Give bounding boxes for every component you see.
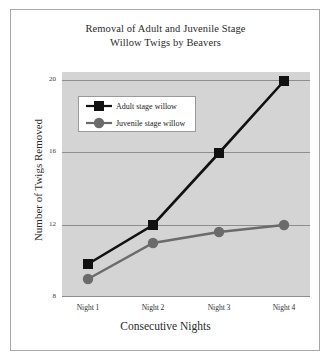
chart-figure: Removal of Adult and Juvenile Stage Will… xyxy=(0,0,331,362)
data-point-adult-night-2 xyxy=(148,220,158,230)
chart-title-line-2: Willow Twigs by Beavers xyxy=(20,36,311,50)
x-tick-label-night-3: Night 3 xyxy=(189,303,249,312)
data-point-adult-night-1 xyxy=(83,259,93,269)
chart-title-line-1: Removal of Adult and Juvenile Stage xyxy=(20,22,311,36)
y-tick-label-8: 8 xyxy=(30,292,56,300)
legend-label-juvenile: Juvenile stage willow xyxy=(116,119,185,128)
data-point-juvenile-night-1 xyxy=(83,274,93,284)
y-tick-label-16: 16 xyxy=(30,147,56,155)
y-axis-title: Number of Twigs Removed xyxy=(32,80,44,280)
y-tick-label-12: 12 xyxy=(30,220,56,228)
legend-item-adult: Adult stage willow xyxy=(79,98,197,114)
data-point-adult-night-3 xyxy=(214,148,224,158)
data-point-adult-night-4 xyxy=(279,76,289,86)
legend-label-adult: Adult stage willow xyxy=(116,102,177,111)
x-axis-title: Consecutive Nights xyxy=(20,320,311,332)
legend-item-juvenile: Juvenile stage willow xyxy=(79,115,197,131)
data-point-juvenile-night-4 xyxy=(279,220,289,230)
legend-marker-circle-icon xyxy=(84,116,114,130)
chart-legend: Adult stage willow Juvenile stage willow xyxy=(78,96,196,132)
series-line-juvenile xyxy=(88,225,284,279)
x-tick-label-night-2: Night 2 xyxy=(123,303,183,312)
x-tick-label-night-4: Night 4 xyxy=(254,303,314,312)
x-tick-label-night-1: Night 1 xyxy=(58,303,118,312)
chart-title: Removal of Adult and Juvenile Stage Will… xyxy=(20,22,311,49)
legend-marker-square-icon xyxy=(84,99,114,113)
data-point-juvenile-night-3 xyxy=(214,227,224,237)
y-tick-label-20: 20 xyxy=(30,75,56,83)
data-point-juvenile-night-2 xyxy=(148,238,158,248)
